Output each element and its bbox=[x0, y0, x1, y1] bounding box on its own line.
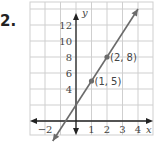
svg-text:−2: −2 bbox=[38, 124, 53, 135]
svg-text:(1, 5): (1, 5) bbox=[95, 76, 122, 87]
tick-labels: −212344681012 bbox=[38, 20, 142, 135]
grid bbox=[30, 2, 153, 135]
svg-text:4: 4 bbox=[66, 84, 72, 95]
svg-text:x: x bbox=[146, 124, 152, 135]
svg-text:8: 8 bbox=[66, 52, 72, 63]
svg-text:4: 4 bbox=[135, 124, 141, 135]
svg-text:1: 1 bbox=[88, 124, 94, 135]
svg-text:10: 10 bbox=[59, 36, 72, 47]
svg-text:y: y bbox=[81, 7, 88, 18]
svg-text:(2, 8): (2, 8) bbox=[110, 52, 137, 63]
svg-text:3: 3 bbox=[119, 124, 125, 135]
coordinate-graph: yx −212344681012 (1, 5)(2, 8) bbox=[0, 0, 165, 147]
svg-text:12: 12 bbox=[59, 20, 72, 31]
svg-text:2: 2 bbox=[104, 124, 110, 135]
svg-text:6: 6 bbox=[66, 68, 72, 79]
